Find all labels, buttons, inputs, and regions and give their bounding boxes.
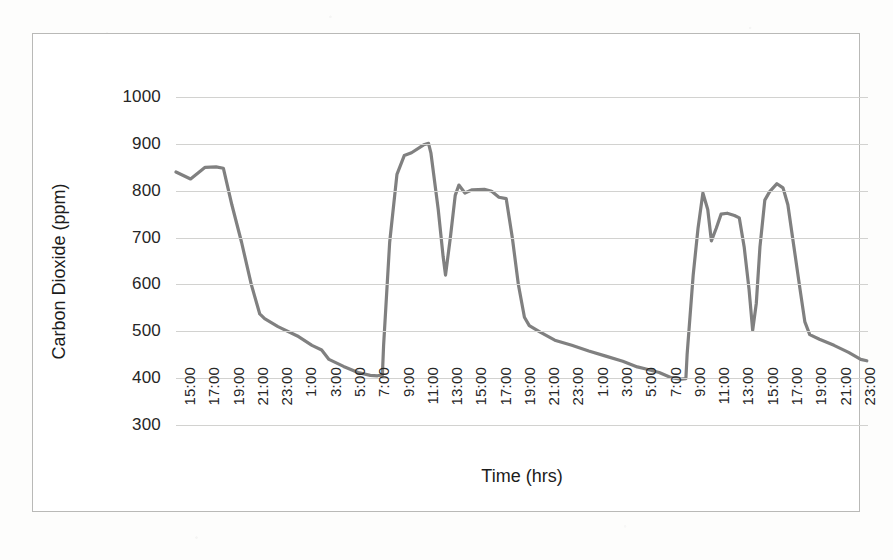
y-tick-label: 600 [132,274,161,294]
gridline-1000 [176,97,868,98]
x-axis-tick-labels: 15:0017:0019:0021:0023:001:003:005:007:0… [176,367,868,463]
y-axis-title: Carbon Dioxide (ppm) [49,122,70,422]
x-tick-label: 13:00 [448,367,465,406]
x-tick-label: 15:00 [181,367,198,406]
gridline-800 [176,191,868,192]
x-tick-label: 9:00 [691,367,708,397]
gridline-500 [176,331,868,332]
chart-figure: 1000900800700600500400300 Carbon Dioxide… [32,33,860,512]
gridline-700 [176,238,868,239]
y-tick-label: 800 [132,181,161,201]
y-tick-label: 500 [132,321,161,341]
x-tick-label: 23:00 [278,367,295,406]
x-tick-label: 1:00 [594,367,611,397]
x-tick-label: 3:00 [618,367,635,397]
x-tick-label: 21:00 [837,367,854,406]
x-tick-label: 13:00 [739,367,756,406]
y-tick-label: 400 [132,368,161,388]
x-tick-label: 3:00 [327,367,344,397]
x-tick-label: 19:00 [812,367,829,406]
x-tick-label: 5:00 [642,367,659,397]
x-tick-label: 23:00 [861,367,878,406]
y-tick-label: 900 [132,134,161,154]
x-tick-label: 19:00 [230,367,247,406]
gridline-900 [176,144,868,145]
x-tick-label: 21:00 [545,367,562,406]
x-tick-label: 9:00 [400,367,417,397]
series-line [176,143,867,379]
x-tick-label: 11:00 [424,367,441,404]
x-tick-label: 1:00 [302,367,319,397]
x-tick-label: 7:00 [375,367,392,397]
x-tick-label: 5:00 [351,367,368,397]
x-tick-label: 15:00 [764,367,781,406]
y-tick-label: 700 [132,228,161,248]
x-tick-label: 17:00 [788,367,805,406]
x-tick-label: 21:00 [254,367,271,406]
x-tick-label: 17:00 [497,367,514,406]
x-tick-label: 15:00 [472,367,489,406]
x-tick-label: 17:00 [205,367,222,406]
x-tick-label: 19:00 [521,367,538,406]
x-tick-label: 7:00 [667,367,684,397]
y-tick-label: 1000 [122,87,161,107]
x-axis-title: Time (hrs) [176,466,868,487]
gridline-600 [176,284,868,285]
x-tick-label: 23:00 [569,367,586,406]
y-tick-label: 300 [132,415,161,435]
x-tick-label: 11:00 [715,367,732,404]
